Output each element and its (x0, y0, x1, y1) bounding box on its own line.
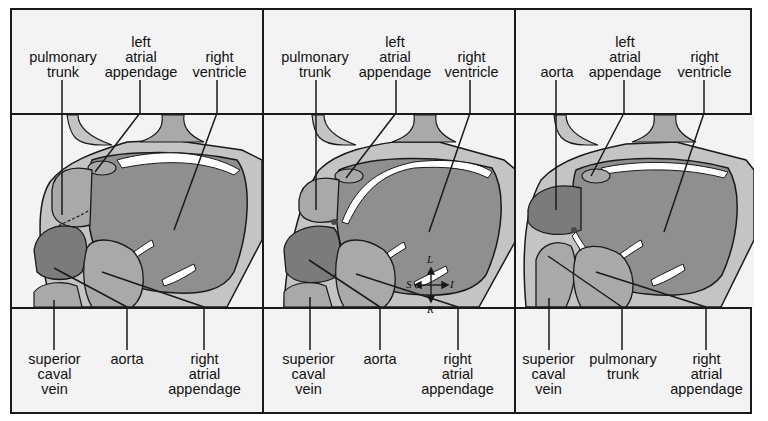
panel-1: pulmonary trunk left atrial appendage ri… (12, 10, 262, 412)
label-left-atrial-appendage: left atrial appendage (584, 35, 666, 80)
label-right-atrial-appendage: right atrial appendage (669, 352, 744, 397)
label-pulmonary-trunk: pulmonary trunk (276, 50, 354, 80)
label-left-atrial-appendage: left atrial appendage (354, 35, 436, 80)
divider-bottom (516, 307, 752, 309)
panel-2: L S I R pulmonary trunk left atrial appe… (262, 10, 514, 412)
label-left-atrial-appendage: left atrial appendage (100, 35, 182, 80)
divider-bottom (264, 307, 514, 309)
divider-top (516, 113, 752, 115)
orientation-label-right: I (450, 278, 454, 290)
label-aorta: aorta (360, 352, 400, 367)
label-superior-caval-vein: superior caval vein (22, 352, 87, 397)
label-pulmonary-trunk: pulmonary trunk (24, 50, 102, 80)
orientation-label-left: S (406, 278, 412, 290)
divider-bottom (12, 307, 262, 309)
label-right-ventricle: right ventricle (187, 50, 252, 80)
label-pulmonary-trunk: pulmonary trunk (584, 352, 662, 382)
label-right-atrial-appendage: right atrial appendage (420, 352, 495, 397)
divider-top (264, 113, 514, 115)
label-right-ventricle: right ventricle (439, 50, 504, 80)
label-superior-caval-vein: superior caval vein (276, 352, 341, 397)
orientation-label-up: L (427, 253, 433, 265)
divider-top (12, 113, 262, 115)
label-right-atrial-appendage: right atrial appendage (167, 352, 242, 397)
label-aorta: aorta (536, 65, 578, 80)
heart-diagram-figure: pulmonary trunk left atrial appendage ri… (10, 8, 752, 414)
panel-3: aorta left atrial appendage right ventri… (514, 10, 752, 412)
label-right-ventricle: right ventricle (672, 50, 737, 80)
label-superior-caval-vein: superior caval vein (516, 352, 581, 397)
label-aorta: aorta (107, 352, 147, 367)
orientation-label-down: R (427, 303, 434, 315)
